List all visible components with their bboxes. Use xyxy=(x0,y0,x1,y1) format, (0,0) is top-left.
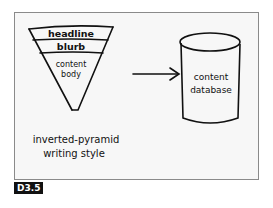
database-label-line1: content xyxy=(194,72,229,82)
caption-line1: inverted-pyramid xyxy=(33,134,120,145)
arrow-right-icon xyxy=(133,68,179,80)
layer-blurb: blurb xyxy=(57,41,86,52)
diagram-canvas: headline blurb content body inverted-pyr… xyxy=(0,0,273,208)
figure-label: D3.5 xyxy=(14,182,43,194)
caption-line2: writing style xyxy=(43,148,105,159)
layer-content-line2: body xyxy=(61,70,81,79)
database-label-line2: database xyxy=(190,85,232,95)
layer-content-line1: content xyxy=(56,60,87,69)
layer-headline: headline xyxy=(48,28,94,39)
